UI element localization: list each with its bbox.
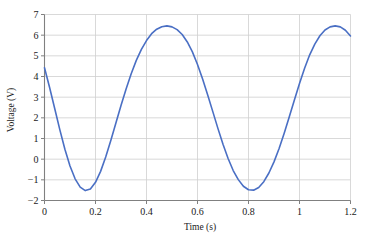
x-tick-label: 0.2 xyxy=(89,206,102,217)
y-tick-label: 4 xyxy=(34,71,39,82)
y-tick-label: 3 xyxy=(34,92,39,103)
plot-frame xyxy=(41,15,351,205)
y-tick-label: 5 xyxy=(34,50,39,61)
y-tick-label: 7 xyxy=(34,9,39,20)
x-tick-label: 1 xyxy=(297,206,302,217)
x-tick-label: 1.2 xyxy=(344,206,357,217)
y-axis-title: Voltage (V) xyxy=(6,88,17,132)
x-tick-label: 0.6 xyxy=(191,206,204,217)
x-tick-label: 0 xyxy=(42,206,47,217)
x-axis-title: Time (s) xyxy=(184,222,216,233)
chart-canvas: 76543210−1−2 00.20.40.60.811.2 Voltage (… xyxy=(0,0,370,242)
y-tick-label: −2 xyxy=(28,195,39,206)
x-tick-label: 0.8 xyxy=(242,206,255,217)
y-axis-tick-labels: 76543210−1−2 xyxy=(28,9,39,206)
vertical-gridlines xyxy=(96,15,351,201)
y-tick-label: 1 xyxy=(34,133,39,144)
y-tick-label: 6 xyxy=(34,30,39,41)
voltage-time-chart: 76543210−1−2 00.20.40.60.811.2 Voltage (… xyxy=(0,0,370,242)
y-tick-label: −1 xyxy=(28,174,39,185)
y-tick-label: 0 xyxy=(34,154,39,165)
x-axis-tick-labels: 00.20.40.60.811.2 xyxy=(42,206,357,217)
x-tick-label: 0.4 xyxy=(140,206,153,217)
y-tick-label: 2 xyxy=(34,112,39,123)
